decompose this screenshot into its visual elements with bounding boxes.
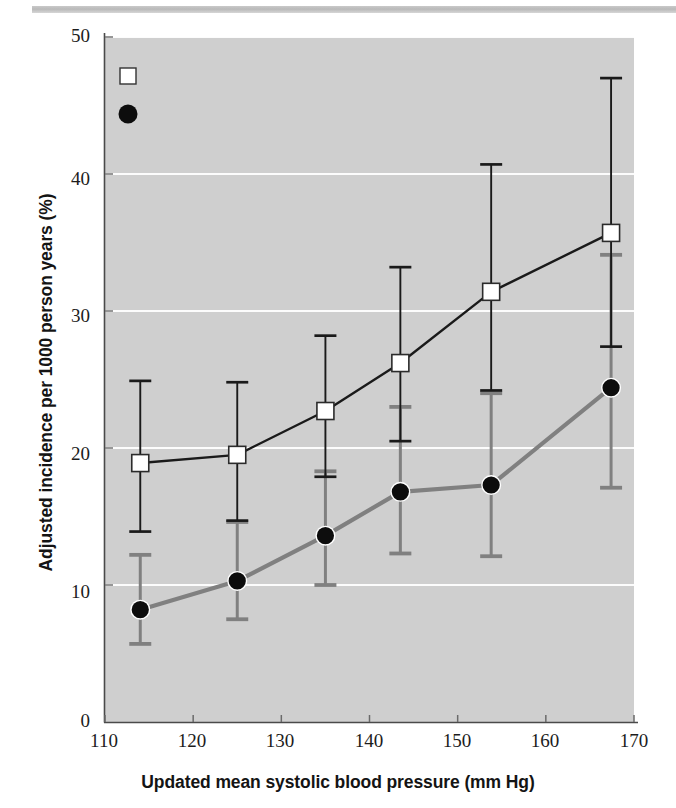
plot-area-background: [105, 37, 634, 722]
legend-marker-open-square: [120, 68, 136, 84]
chart-canvas: [0, 0, 676, 808]
legend-marker-filled-circle: [119, 105, 138, 124]
figure-panel: Adjusted incidence per 1000 person years…: [0, 0, 676, 808]
